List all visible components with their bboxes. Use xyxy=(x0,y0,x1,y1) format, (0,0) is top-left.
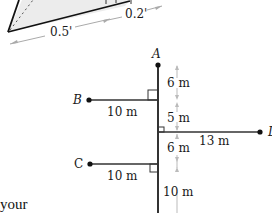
distance-figure: A B 10 m D 13 m C 10 m xyxy=(72,47,272,213)
diagram: 0.5' 0.2' A B 10 m D 13 m C 10 m xyxy=(0,0,272,213)
length-C: 10 m xyxy=(107,169,138,183)
vert-seg-4: 10 m xyxy=(163,185,194,199)
length-B: 10 m xyxy=(107,105,138,119)
label-B: B xyxy=(72,93,82,107)
vert-seg-1: 6 m xyxy=(167,76,190,90)
length-D: 13 m xyxy=(199,134,230,148)
vert-seg-2: 5 m xyxy=(167,111,190,125)
label-D: D xyxy=(267,125,272,139)
wedge-figure: 0.5' 0.2' xyxy=(8,0,162,44)
label-A: A xyxy=(151,47,161,61)
caption-fragment: your xyxy=(0,196,28,213)
dim-0.2: 0.2' xyxy=(125,7,147,21)
dim-0.5: 0.5' xyxy=(50,25,72,39)
label-C: C xyxy=(74,157,83,171)
vert-seg-3: 6 m xyxy=(167,141,190,155)
